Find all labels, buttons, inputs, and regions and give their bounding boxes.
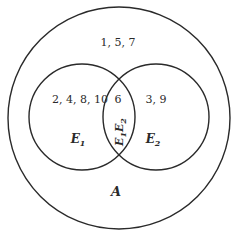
e1-label: E1 [70,132,86,148]
intersection-label: E1E2 [113,118,128,147]
set-e2-circle [103,64,209,170]
outside-elements: 1, 5, 7 [101,36,136,49]
e2-only-elements: 3, 9 [146,93,167,106]
e1-only-elements: 2, 4, 8, 10 [52,93,108,106]
e2-label: E2 [145,132,161,148]
venn-diagram: 1, 5, 7 2, 4, 8, 10 6 3, 9 E1 E2 E1E2 A [0,0,233,239]
universe-label: A [109,184,121,199]
svg-text:E1E2: E1E2 [113,118,128,147]
intersection-elements: 6 [115,93,122,106]
